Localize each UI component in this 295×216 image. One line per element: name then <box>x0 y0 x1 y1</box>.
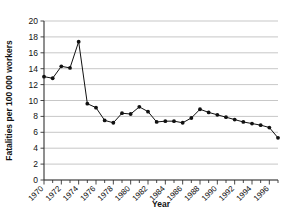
data-point <box>189 116 193 120</box>
data-point <box>51 76 55 80</box>
y-tick-label: 14 <box>29 64 39 74</box>
data-point <box>276 136 280 140</box>
y-tick-label: 4 <box>33 143 38 153</box>
data-point <box>94 106 98 110</box>
y-tick-label: 12 <box>29 80 39 90</box>
data-point <box>59 64 63 68</box>
data-point <box>241 120 245 124</box>
data-point <box>42 75 46 79</box>
data-point <box>103 118 107 122</box>
data-point <box>215 113 219 117</box>
data-point <box>181 121 185 125</box>
x-axis-title: Year <box>152 199 171 209</box>
y-axis-title: Fatalities per 100 000 workers <box>4 40 14 161</box>
data-point <box>207 111 211 115</box>
data-point <box>120 111 124 115</box>
data-point <box>85 102 89 106</box>
fatalities-line-chart: 02468101214161820 1970197219741976197819… <box>0 0 295 216</box>
y-tick-label: 20 <box>29 16 39 26</box>
data-point <box>250 122 254 126</box>
y-tick-label: 8 <box>33 111 38 121</box>
y-tick-label: 16 <box>29 48 39 58</box>
data-point <box>155 120 159 124</box>
data-point <box>129 112 133 116</box>
data-point <box>163 119 167 123</box>
data-point <box>198 107 202 111</box>
data-point <box>224 115 228 119</box>
data-point <box>267 126 271 130</box>
data-point <box>259 123 263 127</box>
y-tick-label: 6 <box>33 127 38 137</box>
data-point <box>77 40 81 44</box>
data-point <box>146 110 150 114</box>
data-point <box>233 118 237 122</box>
y-tick-label: 10 <box>29 96 39 106</box>
y-tick-label: 0 <box>33 175 38 185</box>
chart-canvas: 02468101214161820 1970197219741976197819… <box>0 0 295 216</box>
data-point <box>68 66 72 70</box>
data-point <box>111 121 115 125</box>
y-tick-label: 18 <box>29 32 39 42</box>
data-point <box>137 105 141 109</box>
data-point <box>172 119 176 123</box>
y-tick-label: 2 <box>33 159 38 169</box>
